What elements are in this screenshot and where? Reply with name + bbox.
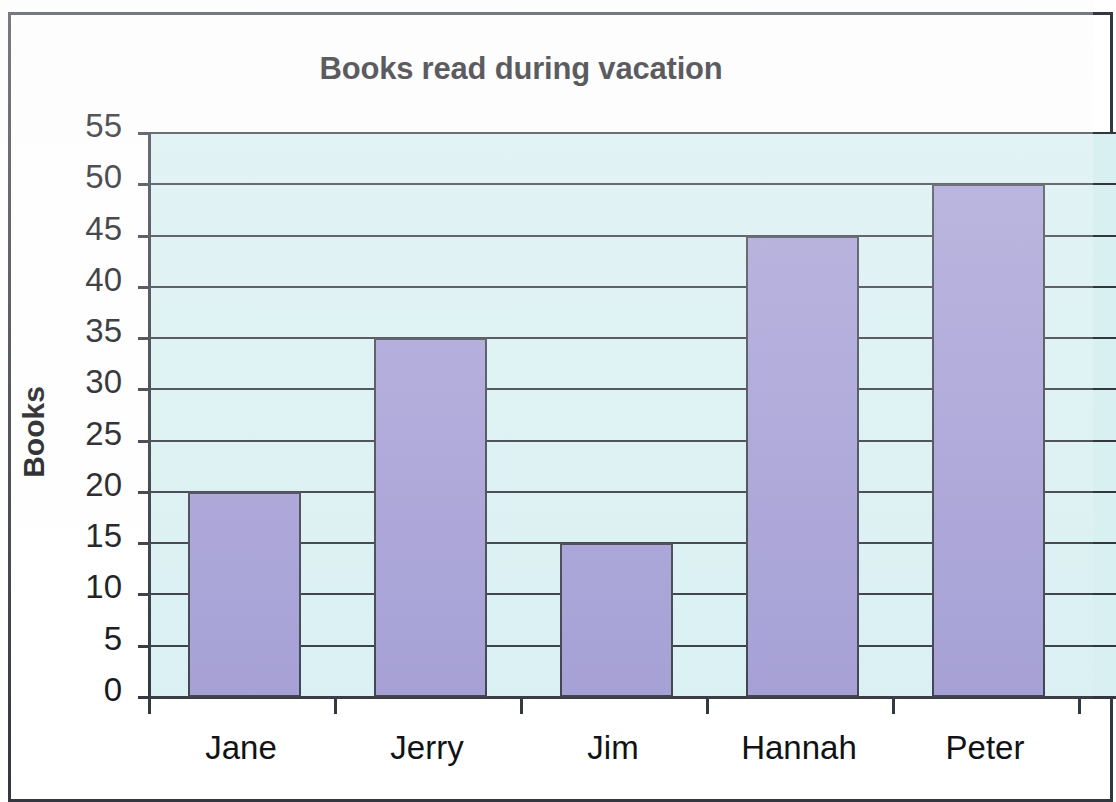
y-axis-tick-label: 15 [11, 519, 122, 552]
plot-area [148, 133, 1116, 697]
y-axis-tick-label: 40 [11, 263, 122, 296]
y-axis-tick-label: 0 [11, 673, 122, 706]
chart-frame: Books read during vacation Books 5550454… [8, 12, 1113, 802]
y-axis-tick-label: 5 [11, 622, 122, 655]
bar [932, 184, 1045, 697]
gridline [151, 132, 1116, 134]
y-axis-tick-label: 45 [11, 212, 122, 245]
x-axis-tick-label: Jim [520, 729, 706, 767]
y-axis-tick [138, 337, 151, 340]
x-axis-tick-label: Jerry [334, 729, 520, 767]
y-axis-tick [138, 593, 151, 596]
x-axis-tick [520, 697, 523, 714]
y-axis-tick [138, 542, 151, 545]
bar [188, 492, 301, 697]
y-axis-tick-label: 50 [11, 160, 122, 193]
y-axis-tick [138, 645, 151, 648]
x-axis-tick [706, 697, 709, 714]
x-axis-tick-label: Peter [892, 729, 1078, 767]
y-axis-tick [138, 388, 151, 391]
y-axis-tick-label: 30 [11, 365, 122, 398]
x-axis-tick [334, 697, 337, 714]
bar [746, 236, 859, 697]
x-axis-tick [892, 697, 895, 714]
x-axis-tick-label: Hannah [706, 729, 892, 767]
bar [374, 338, 487, 697]
y-axis-tick-label: 35 [11, 314, 122, 347]
x-axis-tick [148, 697, 151, 714]
y-axis-tick-label: 10 [11, 570, 122, 603]
y-axis-tick-label: 55 [11, 109, 122, 142]
chart-title: Books read during vacation [11, 51, 1031, 87]
x-axis-tick-label: Jane [148, 729, 334, 767]
y-axis-tick [138, 132, 151, 135]
x-axis-tick [1078, 697, 1081, 714]
y-axis-tick [138, 696, 151, 699]
y-axis-tick [138, 440, 151, 443]
y-axis-tick [138, 235, 151, 238]
y-axis-tick [138, 491, 151, 494]
y-axis-tick-label: 25 [11, 417, 122, 450]
bar [560, 543, 673, 697]
y-axis-tick [138, 286, 151, 289]
y-axis-tick-label: 20 [11, 468, 122, 501]
y-axis-tick [138, 183, 151, 186]
